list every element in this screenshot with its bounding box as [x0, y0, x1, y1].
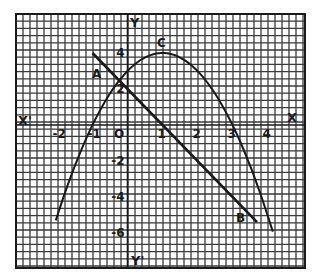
x-tick-label: 4: [263, 127, 271, 141]
y-tick-label: -4: [111, 190, 124, 204]
point-a-label: A: [92, 67, 102, 81]
x-tick-label: 1: [158, 127, 166, 141]
x-pos-label: X: [287, 110, 297, 125]
x-tick-label: -1: [88, 127, 101, 141]
point-b-label: B: [236, 211, 245, 225]
y-tick-label: -2: [111, 154, 124, 168]
y-pos-label: Y: [129, 15, 140, 30]
point-c-label: C: [157, 36, 166, 50]
y-tick-label: 4: [116, 46, 124, 60]
x-tick-label: -2: [53, 127, 66, 141]
y-neg-label: Y': [130, 253, 144, 268]
origin-label: O: [114, 127, 124, 141]
x-tick-label: 2: [193, 127, 201, 141]
y-tick-label: -6: [111, 226, 124, 240]
y-tick-label: 2: [116, 82, 124, 96]
x-neg-label: X': [18, 113, 32, 128]
graph-figure: -2-1123442-2-4-6 X' X Y Y' O A C B: [0, 0, 323, 278]
x-tick-label: 3: [228, 127, 236, 141]
